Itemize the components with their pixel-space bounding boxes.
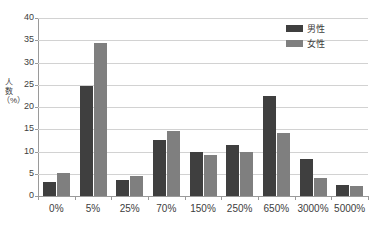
x-axis-tick-mark	[185, 196, 186, 200]
y-axis-tick-label: 40	[14, 13, 34, 22]
x-axis-tick-mark	[111, 196, 112, 200]
bar-male	[116, 180, 129, 196]
bar-female	[277, 133, 290, 196]
y-axis-tick-label: 10	[14, 147, 34, 156]
bar-female	[204, 155, 217, 196]
bar-female	[57, 173, 70, 196]
bar-male	[80, 86, 93, 196]
x-axis-tick-mark	[368, 196, 369, 200]
y-axis-tick-mark	[35, 85, 38, 86]
bar-group	[336, 18, 363, 196]
bar-male	[336, 185, 349, 196]
bar-female	[167, 131, 180, 196]
x-axis-tick-mark	[295, 196, 296, 200]
y-axis-tick-label: 30	[14, 58, 34, 67]
x-axis-tick-label: 5000%	[327, 203, 373, 215]
y-axis-tick-mark	[35, 40, 38, 41]
bar-male	[300, 159, 313, 196]
y-axis-tick-mark	[35, 129, 38, 130]
bar-female	[94, 43, 107, 196]
bar-male	[190, 152, 203, 196]
y-axis-tick-label: 20	[14, 102, 34, 111]
x-axis-tick-mark	[221, 196, 222, 200]
y-axis-tick-label: 15	[14, 124, 34, 133]
y-axis-tick-mark	[35, 18, 38, 19]
legend-label-male: 男性	[307, 23, 325, 35]
bar-male	[263, 96, 276, 196]
chart-legend: 男性 女性	[286, 22, 325, 52]
y-axis-tick-mark	[35, 63, 38, 64]
bar-group	[43, 18, 70, 196]
bar-male	[226, 145, 239, 196]
bar-group	[190, 18, 217, 196]
x-axis-tick-mark	[38, 196, 39, 200]
bar-chart: 人数（%） 男性 女性 05101520253035400%5%25%70%15…	[0, 0, 376, 229]
y-axis-tick-label: 35	[14, 35, 34, 44]
y-axis-tick-mark	[35, 107, 38, 108]
gridline	[38, 196, 368, 197]
bar-group	[116, 18, 143, 196]
y-axis-tick-label: 25	[14, 80, 34, 89]
bar-group	[80, 18, 107, 196]
legend-item-male: 男性	[286, 22, 325, 35]
x-axis-tick-mark	[258, 196, 259, 200]
x-axis-tick-mark	[75, 196, 76, 200]
y-axis-tick-label: 0	[14, 191, 34, 200]
legend-item-female: 女性	[286, 37, 325, 50]
y-axis-tick-mark	[35, 174, 38, 175]
y-axis-tick-mark	[35, 152, 38, 153]
bar-female	[350, 186, 363, 196]
y-axis-tick-label: 5	[14, 169, 34, 178]
legend-swatch-male-icon	[286, 25, 303, 32]
bar-male	[153, 140, 166, 196]
legend-swatch-female-icon	[286, 40, 303, 47]
bar-female	[314, 178, 327, 196]
bar-group	[153, 18, 180, 196]
legend-label-female: 女性	[307, 38, 325, 50]
x-axis-tick-mark	[331, 196, 332, 200]
x-axis-tick-mark	[148, 196, 149, 200]
bar-female	[240, 152, 253, 196]
bar-female	[130, 176, 143, 196]
bar-group	[226, 18, 253, 196]
bar-male	[43, 182, 56, 196]
